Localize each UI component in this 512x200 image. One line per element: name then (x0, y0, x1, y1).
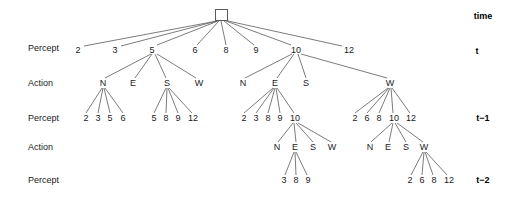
tree-edge (278, 123, 293, 142)
tree-edge (298, 123, 331, 142)
tree-edge (422, 152, 424, 175)
root-node[interactable] (215, 9, 228, 21)
tree-edge (105, 54, 151, 78)
tree-edge (294, 123, 296, 142)
time-t-minus-2: t−2 (476, 176, 489, 185)
tree-node-percept-t[interactable]: 6 (192, 46, 197, 55)
tree-node-percept-t2[interactable]: 6 (419, 176, 424, 185)
tree-node-percept-t2[interactable]: 2 (407, 176, 412, 185)
tree-edge (389, 123, 393, 142)
tree-edge (296, 152, 307, 175)
row-percept-t2-label: Percept (28, 176, 59, 185)
tree-edge (295, 152, 296, 175)
tree-edge (379, 88, 390, 113)
time-t: t (476, 47, 479, 56)
tree-node-percept-t2[interactable]: 8 (431, 176, 436, 185)
tree-edge (157, 21, 218, 45)
tree-node-percept-t1[interactable]: 9 (175, 114, 180, 123)
tree-node-action-t1[interactable]: W (420, 143, 429, 152)
tree-edge (221, 21, 226, 45)
time-t-minus-1: t−1 (476, 114, 489, 123)
tree-node-action-t[interactable]: N (100, 79, 107, 88)
tree-edge (298, 54, 306, 78)
tree-edge (367, 88, 389, 113)
tree-edge (154, 88, 166, 113)
tree-node-action-t[interactable]: S (164, 79, 170, 88)
tree-edge (155, 54, 166, 78)
tree-node-percept-t1[interactable]: 8 (376, 114, 381, 123)
tree-node-percept-t[interactable]: 12 (344, 46, 354, 55)
tree-node-percept-t[interactable]: 9 (253, 46, 258, 55)
tree-node-percept-t1[interactable]: 12 (188, 114, 198, 123)
tree-edge (104, 88, 110, 113)
tree-node-action-t1[interactable]: N (367, 143, 374, 152)
tree-node-percept-t1[interactable]: 2 (352, 114, 357, 123)
tree-node-action-t1[interactable]: S (403, 143, 409, 152)
tree-node-percept-t2[interactable]: 3 (281, 176, 286, 185)
tree-node-percept-t1[interactable]: 12 (406, 114, 416, 123)
tree-edge (285, 152, 294, 175)
tree-node-percept-t1[interactable]: 6 (120, 114, 125, 123)
tree-node-action-t1[interactable]: S (310, 143, 316, 152)
diagram-canvas: 2356891012NESWNESW2356589122389102681012… (0, 0, 512, 200)
tree-node-action-t[interactable]: E (130, 79, 136, 88)
tree-edge (121, 21, 217, 46)
tree-edge (301, 54, 387, 78)
tree-node-percept-t1[interactable]: 9 (277, 114, 282, 123)
tree-node-percept-t2[interactable]: 12 (444, 176, 454, 185)
tree-node-percept-t[interactable]: 5 (149, 46, 154, 55)
tree-edge (105, 88, 123, 113)
tree-node-percept-t1[interactable]: 6 (364, 114, 369, 123)
tree-edge (392, 88, 410, 113)
tree-edge (228, 21, 342, 46)
tree-node-percept-t2[interactable]: 9 (305, 176, 310, 185)
edge-layer (0, 0, 512, 200)
row-action-t-label: Action (28, 79, 53, 88)
tree-edge (166, 88, 167, 113)
tree-node-percept-t1[interactable]: 2 (241, 114, 246, 123)
tree-node-percept-t1[interactable]: 5 (107, 114, 112, 123)
tree-node-percept-t[interactable]: 2 (75, 46, 80, 55)
tree-node-percept-t[interactable]: 10 (291, 46, 301, 55)
tree-node-action-t1[interactable]: E (385, 143, 391, 152)
tree-node-percept-t1[interactable]: 8 (163, 114, 168, 123)
tree-node-percept-t1[interactable]: 5 (151, 114, 156, 123)
tree-node-action-t1[interactable]: W (328, 143, 337, 152)
tree-node-percept-t1[interactable]: 8 (265, 114, 270, 123)
tree-node-action-t[interactable]: N (240, 79, 247, 88)
tree-edge (86, 88, 102, 113)
row-action-t1-label: Action (28, 143, 53, 152)
tree-node-action-t[interactable]: W (195, 79, 204, 88)
tree-edge (355, 88, 388, 113)
tree-edge (391, 88, 393, 113)
tree-node-percept-t1[interactable]: 10 (290, 114, 300, 123)
row-percept-t1-label: Percept (28, 114, 59, 123)
tree-edge (296, 123, 313, 142)
time-header: time (474, 12, 493, 21)
tree-node-percept-t1[interactable]: 3 (95, 114, 100, 123)
tree-edge (371, 123, 392, 142)
tree-node-percept-t[interactable]: 8 (223, 46, 228, 55)
tree-edge (168, 88, 178, 113)
tree-node-action-t1[interactable]: E (292, 143, 298, 152)
tree-edge (157, 54, 196, 78)
tree-node-percept-t1[interactable]: 3 (253, 114, 258, 123)
tree-node-percept-t[interactable]: 3 (112, 46, 117, 55)
tree-edge (98, 88, 103, 113)
tree-node-action-t[interactable]: E (272, 79, 278, 88)
row-percept-t-label: Percept (28, 44, 59, 53)
tree-node-action-t[interactable]: S (303, 79, 309, 88)
tree-node-percept-t2[interactable]: 8 (293, 176, 298, 185)
tree-edge (224, 21, 254, 45)
tree-edge (245, 54, 292, 78)
tree-node-percept-t1[interactable]: 10 (389, 114, 399, 123)
tree-node-action-t[interactable]: W (386, 79, 395, 88)
tree-node-percept-t1[interactable]: 2 (83, 114, 88, 123)
tree-edge (84, 21, 217, 46)
tree-edge (169, 88, 192, 113)
tree-node-action-t1[interactable]: N (274, 143, 281, 152)
tree-edge (411, 152, 423, 175)
